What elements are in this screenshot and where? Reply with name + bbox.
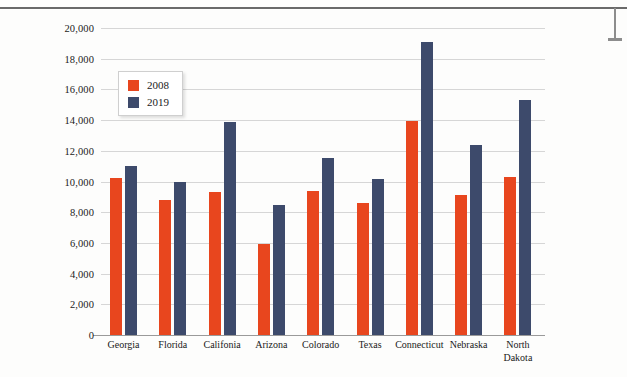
x-axis-label: Connecticut: [395, 339, 444, 352]
bar-2019[interactable]: [224, 122, 236, 335]
bar-2019[interactable]: [470, 145, 482, 335]
bar-2008[interactable]: [159, 200, 171, 335]
bar-2008[interactable]: [406, 121, 418, 335]
bar-2019[interactable]: [372, 179, 384, 335]
bar-2008[interactable]: [357, 203, 369, 335]
bar-2008[interactable]: [307, 191, 319, 335]
y-axis-tick-label: 0: [89, 330, 94, 341]
x-axis-line: [93, 335, 545, 336]
bar-group: [258, 28, 285, 335]
bar-2019[interactable]: [174, 182, 186, 336]
y-axis-tick-label: 18,000: [65, 53, 94, 64]
legend-swatch: [128, 97, 139, 108]
y-axis-tick-label: 16,000: [65, 84, 94, 95]
bar-2008[interactable]: [110, 178, 122, 335]
bar-2008[interactable]: [504, 177, 516, 335]
chart-legend: 20082019: [118, 71, 183, 116]
bar-group: [406, 28, 433, 335]
y-axis-tick-label: 4,000: [70, 268, 94, 279]
bar-group: [357, 28, 384, 335]
legend-item[interactable]: 2019: [128, 96, 169, 108]
bar-group: [504, 28, 531, 335]
bar-group: [307, 28, 334, 335]
x-axis-label: Florida: [148, 339, 197, 352]
y-axis-tick-label: 10,000: [65, 176, 94, 187]
bar-2019[interactable]: [421, 42, 433, 335]
legend-swatch: [128, 80, 139, 91]
bar-2008[interactable]: [455, 195, 467, 335]
bar-2019[interactable]: [322, 158, 334, 335]
y-axis-tick-label: 6,000: [70, 237, 94, 248]
bar-2019[interactable]: [273, 205, 285, 335]
bar-group: [455, 28, 482, 335]
bar-2019[interactable]: [125, 166, 137, 335]
y-axis-tick-label: 14,000: [65, 115, 94, 126]
bar-group: [209, 28, 236, 335]
bar-2008[interactable]: [209, 192, 221, 335]
x-axis-label: Arizona: [247, 339, 296, 352]
bar-2019[interactable]: [519, 100, 531, 335]
x-axis-label: North Dakota: [493, 339, 542, 364]
y-axis-tick-label: 20,000: [65, 23, 94, 34]
x-axis-label: Califonia: [198, 339, 247, 352]
bar-2008[interactable]: [258, 244, 270, 335]
legend-item[interactable]: 2008: [128, 79, 169, 91]
legend-label: 2008: [147, 79, 169, 91]
y-axis-tick-label: 2,000: [70, 299, 94, 310]
y-axis-tick-label: 8,000: [70, 207, 94, 218]
legend-label: 2019: [147, 96, 169, 108]
x-axis-label: Colorado: [296, 339, 345, 352]
page-canvas: 20,00018,00016,00014,00012,00010,0008,00…: [0, 0, 627, 377]
y-axis-tick-label: 12,000: [65, 145, 94, 156]
bar-chart: 20,00018,00016,00014,00012,00010,0008,00…: [0, 8, 627, 377]
x-axis-label: Nebraska: [444, 339, 493, 352]
x-axis-label: Georgia: [99, 339, 148, 352]
x-axis-label: Texas: [346, 339, 395, 352]
